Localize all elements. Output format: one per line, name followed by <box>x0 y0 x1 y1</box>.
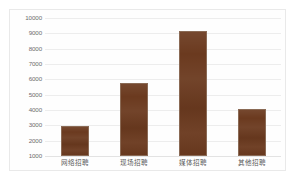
y-axis-tick-label: 10000 <box>25 15 42 21</box>
y-axis-tick-label: 9000 <box>29 30 42 36</box>
y-axis-tick-label: 2000 <box>29 138 42 144</box>
y-axis-tick-label: 1000 <box>29 153 42 159</box>
x-axis-category-label: 现场招聘 <box>120 160 148 167</box>
y-axis: 1000200030004000500060007000800090001000… <box>9 18 42 156</box>
y-axis-tick-label: 5000 <box>29 92 42 98</box>
y-axis-tick-label: 6000 <box>29 76 42 82</box>
y-axis-tick-label: 7000 <box>29 61 42 67</box>
x-axis-category-label: 其他招聘 <box>238 160 266 167</box>
y-axis-tick-label: 8000 <box>29 46 42 52</box>
bar-chart: 1000200030004000500060007000800090001000… <box>0 0 295 188</box>
x-axis-category-label: 媒体招聘 <box>179 160 207 167</box>
x-axis: 网络招聘现场招聘媒体招聘其他招聘 <box>45 18 281 178</box>
y-axis-tick-label: 4000 <box>29 107 42 113</box>
y-axis-tick-label: 3000 <box>29 122 42 128</box>
x-axis-category-label: 网络招聘 <box>61 160 89 167</box>
